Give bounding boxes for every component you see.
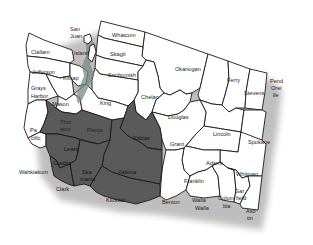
label-pacific-2: cific	[31, 135, 41, 141]
label-mason: Mason	[52, 101, 69, 107]
label-pend-oreille-1: Pend	[270, 78, 283, 84]
label-thurston-1: Thur	[60, 119, 72, 125]
label-skamania-1: Ska	[82, 169, 93, 175]
label-cowlitz: Cowlitz	[53, 160, 71, 166]
label-columbia-2: bia	[223, 203, 231, 209]
label-clark: Clark	[56, 186, 69, 192]
label-garfield-1: Gar	[235, 188, 244, 194]
label-walla-walla-2: Walla	[195, 205, 210, 211]
label-yakima: Yakima	[118, 169, 137, 175]
label-chelan: Chelan	[141, 94, 159, 100]
label-benton: Benton	[162, 199, 180, 205]
label-klickitat: Klickitat	[106, 197, 126, 203]
label-pierce: Pierce	[87, 127, 103, 133]
label-clallam: Clallam	[31, 49, 50, 55]
label-pend-oreille-3: lle	[273, 92, 279, 98]
label-thurston-2: ston	[60, 126, 71, 132]
label-okanogan: Okanogan	[175, 66, 201, 72]
washington-county-map: Whatcom San Juan Island Skagit Clallam J…	[0, 0, 313, 245]
label-skagit: Skagit	[110, 51, 126, 57]
label-douglas: Douglas	[168, 114, 189, 120]
label-stevens: Stevens	[244, 90, 264, 96]
label-grant: Grant	[170, 141, 184, 147]
label-kitsap: Kitsap	[63, 75, 79, 81]
label-spokane: Spokane	[248, 139, 270, 145]
label-island: Island	[74, 50, 89, 56]
label-adams: Adams	[206, 160, 224, 166]
label-kittitas: Kittitas	[133, 135, 150, 141]
label-grays-harbor-2: Harbor	[31, 93, 48, 99]
label-san-juan-2: Juan	[70, 33, 82, 39]
label-san-juan-1: San	[70, 26, 80, 32]
label-lewis: Lewis	[64, 146, 79, 152]
label-pacific-1: Pa	[30, 127, 38, 133]
label-asotin-1: Aso	[246, 208, 256, 214]
label-snohomish: Snohomish	[108, 72, 136, 78]
label-franklin: Franklin	[184, 178, 204, 184]
label-king: King	[100, 100, 111, 106]
label-wahkiakum: Wahkiakum	[19, 169, 48, 175]
label-garfield-2: field	[236, 195, 246, 201]
label-ferry: Ferry	[227, 77, 240, 83]
label-whatcom: Whatcom	[112, 32, 136, 38]
label-jefferson: Jefferson	[32, 69, 55, 75]
label-grays-harbor-1: Grays	[31, 85, 46, 91]
label-pend-oreille-2: Orei	[271, 85, 282, 91]
label-columbia-1: Colum	[218, 195, 235, 201]
label-lincoln: Lincoln	[213, 131, 231, 137]
label-whitman: Whitman	[236, 171, 258, 177]
label-skamania-2: mania	[80, 176, 96, 182]
label-walla-walla-1: Walla	[192, 197, 207, 203]
label-asotin-2: tin	[247, 215, 253, 221]
